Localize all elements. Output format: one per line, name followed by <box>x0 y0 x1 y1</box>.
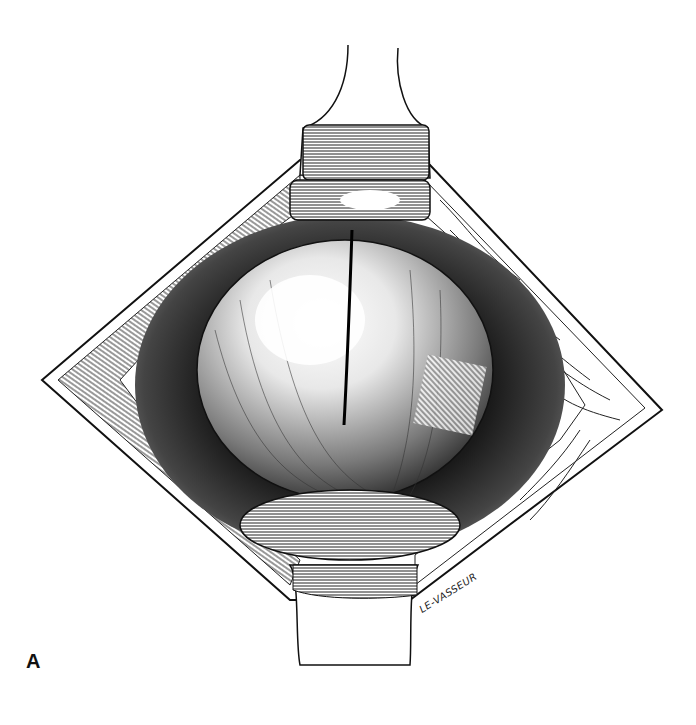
upper-retractor <box>290 45 430 220</box>
organ-sphere <box>197 240 493 500</box>
surgical-illustration <box>0 0 696 725</box>
panel-label: A <box>26 651 40 671</box>
